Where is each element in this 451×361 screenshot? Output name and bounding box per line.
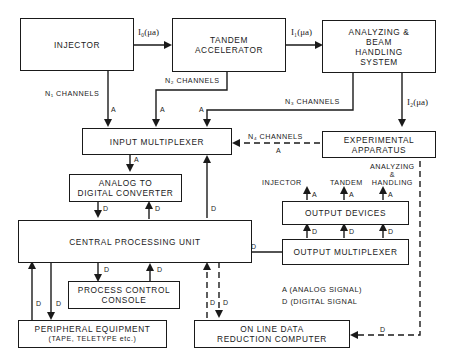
signal-d-exp-reduction: D: [380, 326, 385, 333]
tandem-label-line2: ACCELERATOR: [195, 45, 263, 55]
adc-label-line2: DIGITAL CONVERTER: [78, 188, 174, 198]
analyzing-label-line1: ANALYZING &: [349, 27, 410, 37]
target-injector-label: INJECTOR: [262, 178, 302, 187]
console-label-line2: CONSOLE: [78, 295, 170, 305]
console-label-line1: PROCESS CONTROL: [78, 285, 170, 295]
n1-channels-label: N₁ CHANNELS: [45, 89, 99, 98]
target-analyzing-label: ANALYZING & HANDLING: [370, 163, 415, 187]
input-multiplexer-block: INPUT MULTIPLEXER: [82, 128, 232, 155]
analyzing-label-line2: BEAM: [349, 37, 410, 47]
experimental-apparatus-block: EXPERIMENTAL APPARATUS: [322, 131, 436, 158]
output-devices-block: OUTPUT DEVICES: [282, 201, 409, 225]
output-devices-label: OUTPUT DEVICES: [305, 208, 386, 218]
signal-d-cpu-inmux: D: [211, 205, 216, 212]
n4-channels-label: N₄ CHANNELS: [248, 132, 303, 141]
signal-a-adc-in: A: [134, 156, 139, 163]
output-multiplexer-block: OUTPUT MULTIPLEXER: [282, 239, 409, 265]
signal-d-cpu-adc: D: [155, 205, 160, 212]
signal-legend: A (ANALOG SIGNAL) D (DIGITAL SIGNAL: [282, 284, 362, 308]
signal-a-n1: A: [111, 106, 116, 113]
analyzing-beam-handling-block: ANALYZING & BEAM HANDLING SYSTEM: [322, 20, 436, 73]
data-acquisition-block-diagram: INJECTOR TANDEM ACCELERATOR ANALYZING & …: [0, 0, 451, 361]
current-i2-label: I₂(μa): [407, 97, 428, 107]
target-tandem-label: TANDEM: [330, 178, 363, 187]
signal-d-periph-cpu: D: [36, 300, 41, 307]
signal-a-n3: A: [199, 106, 204, 113]
signal-d-cpu-console: D: [104, 266, 109, 273]
signal-d-outmux-2: D: [349, 228, 354, 235]
signal-d-cpu-reduction: D: [223, 299, 228, 306]
signal-d-console-cpu: D: [157, 266, 162, 273]
legend-digital: D (DIGITAL SIGNAL: [282, 296, 362, 308]
reduction-label-line2: REDUCTION COMPUTER: [217, 334, 327, 344]
signal-a-n4: A: [276, 147, 281, 154]
analog-digital-converter-block: ANALOG TO DIGITAL CONVERTER: [69, 174, 182, 202]
legend-analog: A (ANALOG SIGNAL): [282, 284, 362, 296]
tandem-accelerator-block: TANDEM ACCELERATOR: [172, 18, 286, 72]
peripheral-label-line1: PERIPHERAL EQUIPMENT: [35, 324, 151, 334]
signal-d-outmux-3: D: [388, 228, 393, 235]
signal-d-adc-cpu: D: [103, 205, 108, 212]
cpu-label: CENTRAL PROCESSING UNIT: [69, 237, 201, 247]
signal-d-outmux-1: D: [312, 228, 317, 235]
signal-d-cpu-periph: D: [56, 300, 61, 307]
input-mux-label: INPUT MULTIPLEXER: [110, 137, 204, 147]
current-i0-label: I₀(μa): [138, 27, 159, 37]
analyzing-label-line4: SYSTEM: [349, 57, 410, 67]
peripheral-label-line2: (TAPE, TELETYPE etc.): [35, 334, 151, 344]
injector-label: INJECTOR: [54, 40, 100, 50]
signal-a-out-3: A: [388, 191, 393, 198]
central-processing-unit-block: CENTRAL PROCESSING UNIT: [18, 220, 252, 263]
signal-a-out-1: A: [312, 191, 317, 198]
n2-channels-label: N₂ CHANNELS: [165, 76, 220, 85]
process-control-console-block: PROCESS CONTROL CONSOLE: [68, 281, 180, 309]
peripheral-equipment-block: PERIPHERAL EQUIPMENT (TAPE, TELETYPE etc…: [18, 320, 167, 348]
signal-d-cpu-outmux: D: [251, 243, 256, 250]
output-mux-label: OUTPUT MULTIPLEXER: [293, 247, 397, 257]
injector-block: INJECTOR: [20, 18, 134, 71]
analyzing-label-line3: HANDLING: [349, 47, 410, 57]
reduction-label-line1: ON LINE DATA: [217, 324, 327, 334]
target-analyzing-line3: HANDLING: [370, 179, 415, 187]
current-i1-label: I₁(μa): [291, 27, 312, 37]
tandem-label-line1: TANDEM: [195, 35, 263, 45]
n3-channels-label: N₃ CHANNELS: [285, 97, 340, 106]
experimental-label-line2: APPARATUS: [344, 145, 415, 155]
signal-d-reduction-cpu: D: [210, 299, 215, 306]
experimental-label-line1: EXPERIMENTAL: [344, 135, 415, 145]
signal-a-n2: A: [160, 106, 165, 113]
online-data-reduction-computer-block: ON LINE DATA REDUCTION COMPUTER: [194, 320, 350, 348]
signal-a-out-2: A: [349, 191, 354, 198]
adc-label-line1: ANALOG TO: [78, 178, 174, 188]
